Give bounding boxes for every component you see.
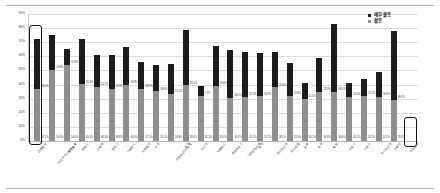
bar-segment-utilized[interactable]: 40.1% [79, 84, 85, 141]
stacked-bar[interactable]: 11.1%30.1% [302, 83, 308, 141]
stacked-bar[interactable]: 48.1%34.6% [331, 24, 337, 141]
bar-segment-utilized[interactable]: 37.2% [34, 89, 40, 141]
bar-segment-very-utilized[interactable]: 35.0% [34, 39, 40, 88]
bar-segment-very-utilized[interactable]: 26.8% [123, 47, 129, 85]
bar-segment-very-utilized[interactable]: 21.1% [168, 64, 174, 94]
bar-segment-utilized[interactable]: 38.4% [94, 87, 100, 141]
bar-segment-very-utilized[interactable]: 25.0% [272, 52, 278, 87]
x-label-slot: 대한민국 서울특별시 [45, 142, 60, 190]
y-tick-label: 80% [1, 26, 25, 29]
bar-segment-very-utilized[interactable]: 18.6% [153, 65, 159, 91]
bar-segment-utilized[interactable]: 29.4% [391, 100, 397, 141]
x-label-slot: 아랍에미리트연합 [164, 142, 179, 190]
stacked-bar[interactable]: 7.2%32.1% [198, 86, 204, 141]
stacked-bar[interactable]: 10.0%31.2% [346, 83, 352, 141]
bar-segment-very-utilized[interactable]: 7.2% [198, 86, 204, 96]
bar-segment-utilized[interactable]: 31.2% [376, 97, 382, 141]
bar-segment-utilized[interactable]: 34.6% [331, 92, 337, 141]
bar-segment-very-utilized[interactable]: 28.0% [213, 46, 219, 86]
stacked-bar[interactable]: 30.9%31.7% [257, 53, 263, 141]
x-label-slot: 핀란드 [75, 142, 90, 190]
x-label-slot: 전체평균 [30, 142, 45, 190]
bar-segment-utilized[interactable]: 40.0% [123, 85, 129, 141]
bar-segment-utilized[interactable]: 32.1% [361, 96, 367, 141]
stacked-bar[interactable]: 23.4%32.0% [287, 63, 293, 141]
stacked-bar[interactable]: 22.7%38.4% [94, 55, 100, 141]
bar-segment-very-utilized[interactable]: 22.7% [94, 55, 100, 87]
x-axis-category-label: 영국 [185, 143, 191, 149]
bar-slot: 48.1%34.6% [327, 14, 342, 141]
bar-segment-very-utilized[interactable]: 39.1% [183, 30, 189, 85]
bar-segment-utilized[interactable]: 38.1% [272, 87, 278, 141]
x-label-slot: 호주 [312, 142, 327, 190]
bar-segment-very-utilized[interactable]: 24.8% [49, 35, 55, 70]
stacked-bar[interactable]: 32.3%40.1% [79, 39, 85, 141]
bar-segment-utilized[interactable]: 31.2% [346, 97, 352, 141]
stacked-bar[interactable]: 48.3%29.4% [391, 31, 397, 141]
bar-segment-utilized[interactable]: 31.7% [257, 96, 263, 141]
stacked-bar[interactable]: 26.8%40.0% [123, 47, 129, 141]
stacked-bar[interactable]: 32.3%31.1% [242, 52, 248, 141]
stacked-bar[interactable]: 12.2%32.1% [361, 79, 367, 141]
bar-segment-utilized[interactable]: 54.0% [64, 65, 70, 141]
bar-segment-utilized[interactable]: 39.0% [213, 86, 219, 141]
stacked-bar[interactable]: 34.0%30.7% [227, 50, 233, 141]
bar-segment-very-utilized[interactable]: 48.3% [391, 31, 397, 99]
stacked-bar[interactable]: 25.0%38.1% [272, 52, 278, 141]
bar-segment-very-utilized[interactable]: 18.9% [138, 62, 144, 89]
y-tick-label: 30% [1, 97, 25, 100]
legend-swatch-icon-dark [368, 14, 371, 17]
bar-segment-utilized[interactable]: 35.1% [153, 91, 159, 141]
bar-segment-utilized[interactable]: 32.1% [198, 96, 204, 141]
bar-segment-very-utilized[interactable]: 30.9% [257, 53, 263, 97]
stacked-bar[interactable]: 23.9%34.8% [316, 58, 322, 141]
bar-segment-utilized[interactable]: 30.1% [302, 99, 308, 141]
stacked-bar[interactable]: 10.9%54.0% [64, 49, 70, 141]
bar-segment-utilized[interactable]: 36.8% [109, 89, 115, 141]
x-label-slot: 스웨덴 [89, 142, 104, 190]
stacked-bar[interactable]: 39.1%39.4% [183, 30, 189, 141]
bar-slot: 12.2%32.1% [357, 14, 372, 141]
stacked-bar[interactable]: 23.9%36.8% [109, 55, 115, 141]
bar-segment-very-utilized[interactable]: 32.3% [79, 39, 85, 85]
bar-segment-very-utilized[interactable]: 23.9% [316, 58, 322, 92]
bar-segment-utilized[interactable]: 30.7% [227, 98, 233, 141]
bar-segment-utilized[interactable]: 33.6% [168, 94, 174, 141]
stacked-bar[interactable]: 18.0%31.2% [376, 72, 382, 141]
stacked-bar[interactable]: 24.8%50.6% [49, 35, 55, 141]
bar-segment-utilized[interactable]: 32.0% [287, 96, 293, 141]
bar-segment-very-utilized[interactable]: 11.1% [302, 83, 308, 99]
bar-segment-very-utilized[interactable]: 23.9% [109, 55, 115, 89]
x-axis-category-label: 독일 [333, 143, 339, 149]
bar-slot [401, 14, 416, 141]
stacked-bar[interactable]: 28.0%39.0% [213, 46, 219, 141]
bar-segment-very-utilized[interactable]: 10.0% [346, 83, 352, 97]
x-label-slot: 캐나다 [193, 142, 208, 190]
bar-segment-utilized[interactable]: 37.1% [138, 89, 144, 141]
bar-segment-utilized[interactable]: 34.8% [316, 92, 322, 141]
bar-segment-utilized[interactable]: 39.4% [183, 85, 189, 141]
bar-slot: 7.2%32.1% [193, 14, 208, 141]
legend-swatch-icon-gray [368, 20, 371, 23]
bar-segment-very-utilized[interactable]: 10.9% [64, 49, 70, 64]
stacked-bar[interactable]: 35.0%37.2% [34, 39, 40, 141]
bar-segment-very-utilized[interactable]: 12.2% [361, 79, 367, 96]
stacked-bar[interactable]: 18.9%37.1% [138, 62, 144, 141]
bar-segment-very-utilized[interactable]: 32.3% [242, 52, 248, 98]
bar-segment-utilized[interactable]: 31.1% [242, 97, 248, 141]
bar-slot: 30.9%31.7% [253, 14, 268, 141]
bar-segment-very-utilized[interactable]: 34.0% [227, 50, 233, 98]
bar-segment-utilized[interactable]: 50.6% [49, 70, 55, 141]
y-tick-label: 0% [1, 139, 25, 142]
stacked-bar[interactable]: 21.1%33.6% [168, 64, 174, 141]
bar-segment-very-utilized[interactable]: 48.1% [331, 24, 337, 92]
x-label-slot: 대한민국 전체 [238, 142, 253, 190]
bar-segment-very-utilized[interactable]: 23.4% [287, 63, 293, 96]
legend-label-very-utilized: 매우 활용 [374, 13, 391, 17]
x-axis-category-label: 일본 [303, 143, 309, 149]
bar-series-container: 35.0%37.2%24.8%50.6%10.9%54.0%32.3%40.1%… [28, 14, 418, 141]
y-tick-label: 10% [1, 125, 25, 128]
bar-segment-very-utilized[interactable]: 18.0% [376, 72, 382, 97]
y-tick-label: 90% [1, 12, 25, 15]
stacked-bar[interactable]: 18.6%35.1% [153, 65, 159, 141]
